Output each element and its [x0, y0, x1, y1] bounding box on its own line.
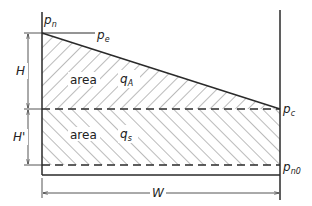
upper-area-label: area — [70, 73, 97, 87]
pn-label: pn — [43, 13, 57, 29]
pe-label: pe — [96, 28, 110, 44]
lower-area-label: area — [70, 128, 97, 142]
pc-label: pc — [282, 102, 296, 118]
h-prime-label: H' — [13, 130, 25, 144]
w-label: W — [152, 186, 165, 200]
h-label: H — [16, 64, 25, 78]
pressure-diagram: pn pe pc pn0 H H' W area qA area qs — [0, 0, 312, 206]
pn0-label: pn0 — [282, 160, 301, 176]
